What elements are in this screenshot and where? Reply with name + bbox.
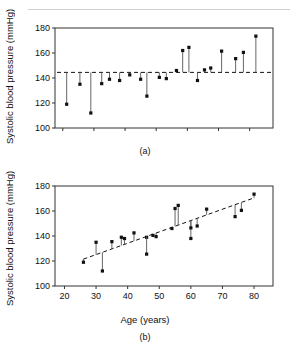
data-point [234,57,237,60]
panel-b-plot: 10012014016018020304050607080 [0,176,290,316]
panel-a-caption: (a) [0,146,290,156]
data-point [240,209,243,212]
panel-a-plot: 100120140160180 [0,14,290,144]
y-tick-label: 160 [35,206,50,216]
data-point [139,78,142,81]
y-tick-label: 140 [35,231,50,241]
data-point [242,51,245,54]
y-tick-label: 180 [35,181,50,191]
x-tick-label: 80 [249,291,259,301]
data-point [65,103,68,106]
x-tick-label: 20 [59,291,69,301]
data-point [128,73,131,76]
data-point [209,66,212,69]
x-tick-label: 70 [217,291,227,301]
data-point [175,69,178,72]
data-point [170,227,173,230]
figure-container: Systolic blood pressure (mmHg) 100120140… [0,0,290,357]
data-point [82,261,85,264]
data-point [155,235,158,238]
y-tick-label: 160 [35,48,50,58]
panel-b-caption: (b) [0,332,290,342]
data-point [189,237,192,240]
data-point [220,50,223,53]
plot-frame [55,186,273,286]
data-point [145,95,148,98]
data-point [101,269,104,272]
data-point [108,78,111,81]
panel-a: Systolic blood pressure (mmHg) 100120140… [0,14,290,166]
data-point [254,35,257,38]
data-point [203,68,206,71]
data-point [94,241,97,244]
x-tick-label: 50 [154,291,164,301]
data-point [165,77,168,80]
data-point [173,207,176,210]
data-point [196,224,199,227]
data-point [158,76,161,79]
data-point [205,208,208,211]
data-point [151,234,154,237]
y-tick-label: 100 [35,123,50,133]
data-point [100,82,103,85]
data-point [145,253,148,256]
header-rule [28,9,290,10]
data-point [118,79,121,82]
panel-b: Systolic blood pressure (mmHg) 100120140… [0,176,290,352]
data-point [252,193,255,196]
x-tick-label: 30 [91,291,101,301]
data-point [233,215,236,218]
data-point [132,231,135,234]
data-point [181,49,184,52]
y-tick-label: 120 [35,98,50,108]
data-point [110,240,113,243]
data-point [177,204,180,207]
y-tick-label: 100 [35,281,50,291]
y-tick-label: 140 [35,73,50,83]
data-point [187,46,190,49]
data-point [120,236,123,239]
y-tick-label: 120 [35,256,50,266]
data-point [123,237,126,240]
data-point [78,83,81,86]
x-tick-label: 60 [186,291,196,301]
regression-line [83,198,254,259]
data-point [89,111,92,114]
data-point [189,226,192,229]
panel-b-x-axis-label: Age (years) [0,314,290,325]
plot-frame [55,28,273,128]
data-point [196,79,199,82]
y-tick-label: 180 [35,23,50,33]
x-tick-label: 40 [123,291,133,301]
